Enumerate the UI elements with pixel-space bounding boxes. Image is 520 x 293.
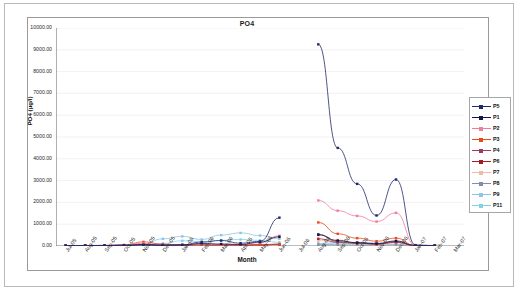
y-axis-tick-label: 10000.00: [30, 25, 52, 30]
legend-swatch-icon: [472, 179, 491, 188]
chart-container: PO4 PO4 (µg/l) 0.001000.002000.003000.00…: [27, 17, 489, 271]
legend-marker: [479, 171, 483, 175]
x-axis-label: Month: [28, 256, 466, 263]
legend-marker: [479, 116, 483, 120]
y-axis-tick-label: 4000.00: [33, 156, 52, 161]
chart-title: PO4: [28, 20, 466, 27]
legend-item-p8[interactable]: P8: [472, 178, 508, 189]
legend-item-p3[interactable]: P3: [472, 134, 508, 145]
y-axis-tick-label: 8000.00: [33, 69, 52, 74]
legend-swatch-icon: [472, 146, 491, 155]
legend-swatch-icon: [472, 124, 491, 133]
chart-legend[interactable]: P5P1P2P3P4P6P7P8P9P11: [469, 97, 511, 213]
legend-item-p9[interactable]: P9: [472, 189, 508, 200]
legend-item-p4[interactable]: P4: [472, 145, 508, 156]
legend-label: P8: [491, 181, 500, 186]
legend-item-p7[interactable]: P7: [472, 167, 508, 178]
y-axis-tick-label: 9000.00: [33, 47, 52, 52]
legend-marker: [479, 105, 483, 109]
legend-item-p1[interactable]: P1: [472, 112, 508, 123]
legend-swatch-icon: [472, 168, 491, 177]
y-axis-tick-label: 7000.00: [33, 91, 52, 96]
legend-label: P1: [491, 115, 500, 120]
legend-marker: [479, 193, 483, 197]
y-axis-tick-label: 3000.00: [33, 178, 52, 183]
y-axis-tick-label: 6000.00: [33, 113, 52, 118]
legend-label: P2: [491, 126, 500, 131]
y-axis-tick-label: 5000.00: [33, 134, 52, 139]
legend-item-p5[interactable]: P5: [472, 101, 508, 112]
legend-marker: [479, 160, 483, 164]
legend-swatch-icon: [472, 201, 491, 210]
chart-screenshot: PO4 PO4 (µg/l) 0.001000.002000.003000.00…: [0, 0, 520, 293]
plot-area: 0.001000.002000.003000.004000.005000.006…: [56, 28, 464, 246]
y-axis-label: PO4 (µg/l): [26, 76, 33, 146]
legend-marker: [479, 182, 483, 186]
y-axis-tick-label: 1000.00: [33, 222, 52, 227]
legend-swatch-icon: [472, 157, 491, 166]
legend-label: P9: [491, 192, 500, 197]
legend-marker: [479, 204, 483, 208]
legend-marker: [479, 138, 483, 142]
legend-swatch-icon: [472, 190, 491, 199]
y-axis-tick-label: 2000.00: [33, 200, 52, 205]
legend-item-p6[interactable]: P6: [472, 156, 508, 167]
plot-svg: [56, 28, 464, 246]
legend-swatch-icon: [472, 135, 491, 144]
legend-label: P6: [491, 159, 500, 164]
legend-label: P3: [491, 137, 500, 142]
legend-label: P11: [491, 203, 502, 208]
y-axis-tick-label: 0.00: [42, 243, 52, 248]
legend-label: P5: [491, 104, 500, 109]
legend-swatch-icon: [472, 113, 491, 122]
legend-marker: [479, 127, 483, 131]
legend-label: P4: [491, 148, 500, 153]
legend-marker: [479, 149, 483, 153]
legend-swatch-icon: [472, 102, 491, 111]
legend-label: P7: [491, 170, 500, 175]
legend-item-p11[interactable]: P11: [472, 200, 508, 211]
legend-item-p2[interactable]: P2: [472, 123, 508, 134]
